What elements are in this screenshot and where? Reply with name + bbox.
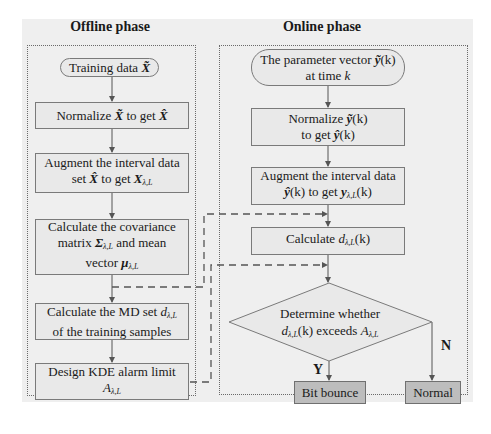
offline-augment-node: Augment the interval data set X̂ to get … — [35, 153, 189, 193]
offline-normalize-node: Normalize X̃ to get X̂ — [35, 102, 189, 129]
online-augment-node: Augment the interval data ŷ(k) to get yλ… — [251, 167, 405, 205]
online-normalize-node: Normalize ỹ(k) to get ŷ(k) — [251, 108, 405, 146]
md-set-node: Calculate the MD set dλ,L of the trainin… — [35, 303, 189, 340]
calculate-d-node: Calculate dλ,L(k) — [251, 227, 405, 255]
parameter-vector-node: The parameter vector ỹ(k) at time k — [251, 49, 405, 86]
normal-node: Normal — [405, 381, 461, 404]
kde-limit-node: Design KDE alarm limit Aλ,L — [35, 363, 189, 400]
decision-text: Determine whether dλ,L(k) exceeds Aλ,L — [260, 305, 400, 343]
branch-yes-label: Y — [313, 362, 323, 378]
branch-no-label: N — [441, 338, 451, 354]
bit-bounce-node: Bit bounce — [294, 381, 366, 404]
training-data-node: Training data X̃ — [60, 58, 159, 77]
covariance-node: Calculate the covariance matrix Σλ,L and… — [35, 219, 189, 275]
